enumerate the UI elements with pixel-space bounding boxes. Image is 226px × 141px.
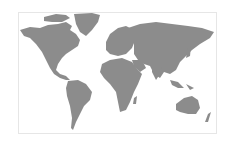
australia	[176, 96, 200, 114]
madagascar	[133, 96, 137, 104]
greenland	[74, 13, 100, 36]
arctic-islands	[44, 14, 70, 22]
north-america	[20, 22, 80, 80]
new-zealand	[205, 112, 211, 122]
south-america	[66, 80, 92, 130]
world-map	[0, 0, 226, 141]
southeast-asia-islands	[170, 80, 194, 90]
